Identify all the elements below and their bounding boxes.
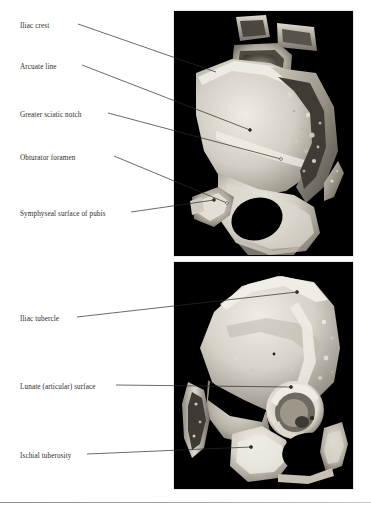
label-arcuate-line: Arcuate line bbox=[20, 63, 57, 71]
figure-panel-lateral-view bbox=[174, 262, 353, 489]
label-iliac-tubercle: Iliac tubercle bbox=[20, 315, 59, 323]
label-symphyseal-surface-of-pubis: Symphyseal surface of pubis bbox=[20, 210, 106, 218]
label-iliac-crest: Iliac crest bbox=[20, 22, 49, 30]
figure-panel-medial-view bbox=[174, 11, 353, 256]
pelvis-medial-view-render bbox=[174, 11, 353, 256]
page-footer-rule bbox=[0, 502, 371, 503]
label-obturator-foramen: Obturator foramen bbox=[20, 154, 75, 162]
figure-page: Iliac crest Arcuate line Greater sciatic… bbox=[0, 0, 371, 511]
pelvis-lateral-view-render bbox=[174, 262, 353, 489]
label-ischial-tuberosity: Ischial tuberosity bbox=[20, 452, 72, 460]
label-lunate-articular-surface: Lunate (articular) surface bbox=[20, 383, 96, 391]
label-greater-sciatic-notch: Greater sciatic notch bbox=[20, 111, 82, 119]
